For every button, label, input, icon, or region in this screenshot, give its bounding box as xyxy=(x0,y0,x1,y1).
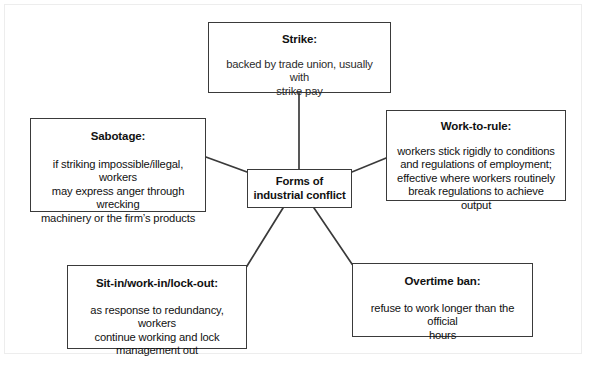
node-sabotage[interactable]: Sabotage: if striking impossible/illegal… xyxy=(30,118,206,212)
node-center-topic[interactable]: Forms of industrial conflict xyxy=(247,169,352,208)
node-strike-title: Strike: xyxy=(216,32,383,46)
node-work-to-rule-body: workers stick rigidly to conditions and … xyxy=(394,145,558,212)
connector-center-to-sit-in xyxy=(247,208,283,266)
node-sabotage-title: Sabotage: xyxy=(38,129,198,143)
node-overtime-ban-title: Overtime ban: xyxy=(360,274,525,288)
node-center-topic-title: Forms of industrial conflict xyxy=(253,175,345,202)
node-sit-in-body: as response to redundancy, workers conti… xyxy=(75,304,239,358)
connector-center-to-overtime-ban xyxy=(314,208,352,264)
connector-center-to-sabotage xyxy=(206,157,247,172)
connector-center-to-work-to-rule xyxy=(352,158,386,172)
node-work-to-rule[interactable]: Work-to-rule: workers stick rigidly to c… xyxy=(386,110,566,201)
node-overtime-ban-body: refuse to work longer than the official … xyxy=(360,302,525,342)
node-overtime-ban[interactable]: Overtime ban: refuse to work longer than… xyxy=(352,263,533,337)
node-sabotage-body: if striking impossible/illegal, workers … xyxy=(38,158,198,225)
node-work-to-rule-title: Work-to-rule: xyxy=(394,119,558,133)
node-sit-in-title: Sit-in/work-in/lock-out: xyxy=(75,276,239,290)
node-sit-in[interactable]: Sit-in/work-in/lock-out: as response to … xyxy=(67,265,247,349)
node-strike[interactable]: Strike: backed by trade union, usually w… xyxy=(208,22,391,93)
diagram-canvas: Strike: backed by trade union, usually w… xyxy=(0,0,589,372)
node-strike-body: backed by trade union, usually with stri… xyxy=(216,58,383,98)
